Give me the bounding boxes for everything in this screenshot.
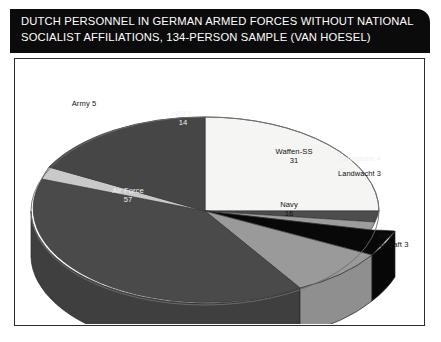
pie-label-anti-aircraft: Anti- aircraft 3 — [378, 231, 424, 250]
pie-label-nskk: NSKK 14 — [159, 109, 207, 128]
pie-chart-figure: DUTCH PERSONNEL IN GERMAN ARMED FORCES W… — [0, 0, 441, 342]
pie-label-air-force: Air Force 57 — [99, 186, 157, 205]
chart-title-line-1: DUTCH PERSONNEL IN GERMAN ARMED FORCES W… — [21, 14, 414, 30]
pie-label-army: Army 5 — [56, 99, 112, 108]
pie-label-navy: Navy 16 — [265, 200, 313, 219]
chart-plot-area: Waffen-SS 31 Landstorm 4 Landwacht 3 Ant… — [14, 58, 425, 326]
chart-title-bar: DUTCH PERSONNEL IN GERMAN ARMED FORCES W… — [10, 9, 430, 53]
chart-title-line-2: SOCIALIST AFFILIATIONS, 134-PERSON SAMPL… — [21, 30, 414, 46]
pie-label-landstorm: Landstorm 4 — [271, 154, 381, 163]
pie-label-landwacht: Landwacht 3 — [271, 169, 381, 178]
